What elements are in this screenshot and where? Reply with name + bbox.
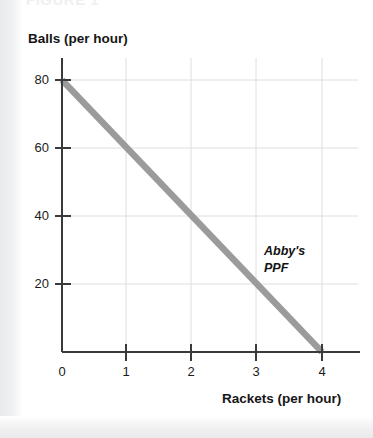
- x-tick-label-4: 4: [311, 364, 333, 379]
- y-tick-label-80: 80: [25, 72, 49, 87]
- y-axis-title: Balls (per hour): [28, 31, 128, 46]
- y-tick-label-40: 40: [25, 208, 49, 223]
- ppf-chart: Balls (per hour) Rackets (per hour) 80 6…: [0, 0, 373, 438]
- ppf-series-annotation: Abby's PPF: [264, 243, 305, 277]
- x-axis-title: Rackets (per hour): [222, 391, 341, 406]
- x-tick-label-1: 1: [115, 364, 137, 379]
- ppf-annotation-line-2: PPF: [264, 260, 305, 277]
- x-tick-label-0: 0: [51, 364, 73, 379]
- y-tick-label-20: 20: [25, 276, 49, 291]
- axis-lines: [62, 58, 360, 352]
- vertical-gridlines: [126, 58, 322, 352]
- ppf-annotation-line-1: Abby's: [264, 243, 305, 260]
- horizontal-gridlines: [62, 80, 358, 284]
- x-tick-label-2: 2: [180, 364, 202, 379]
- x-tick-label-3: 3: [245, 364, 267, 379]
- y-tick-label-60: 60: [25, 140, 49, 155]
